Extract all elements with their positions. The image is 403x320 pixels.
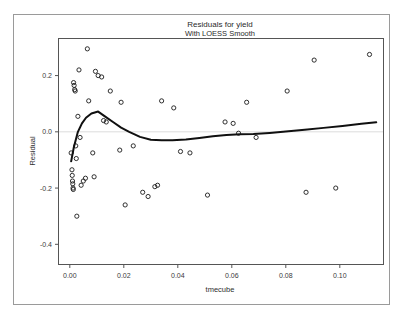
y-axis-ticks: 0.20.0-0.2-0.4 [40,72,59,248]
data-point [75,214,79,218]
page-title: Residuals for yield [187,20,252,29]
data-point [205,193,209,197]
x-axis-ticks: 0.000.020.040.060.080.10 [63,264,347,279]
data-point [119,100,123,104]
data-point [123,203,127,207]
chart-surface: Residuals for yield With LOESS Smooth 0.… [0,0,403,320]
data-point [172,106,176,110]
data-point [76,114,80,118]
data-point [285,89,289,93]
data-point [178,149,182,153]
data-point [74,156,78,160]
data-point [141,190,145,194]
data-point [367,52,371,56]
data-point [160,99,164,103]
data-point [146,194,150,198]
data-point [91,151,95,155]
loess-smooth-layer [71,112,376,162]
data-point [71,182,75,186]
data-point [223,120,227,124]
scatter-points-layer [69,47,372,219]
data-point [231,121,235,125]
data-point [79,183,83,187]
y-tick-label: -0.4 [40,241,52,248]
chart-title-group: Residuals for yield With LOESS Smooth [185,20,255,38]
x-tick-label: 0.10 [333,272,347,279]
data-point [254,135,258,139]
y-tick-label: 0.2 [42,72,52,79]
data-point [92,175,96,179]
plot-area-box [59,39,384,265]
chart-subtitle: With LOESS Smooth [185,29,255,38]
data-point [334,186,338,190]
x-tick-label: 0.08 [279,272,293,279]
data-point [93,69,97,73]
x-tick-label: 0.00 [63,272,77,279]
data-point [245,100,249,104]
data-point [77,68,81,72]
x-axis-title: tmecube [206,285,235,294]
data-point [108,89,112,93]
data-point [87,99,91,103]
y-tick-label: -0.2 [40,185,52,192]
data-point [118,148,122,152]
data-point [312,58,316,62]
residual-scatter-plot: Residuals for yield With LOESS Smooth 0.… [0,0,403,320]
data-point [70,173,74,177]
data-point [85,47,89,51]
data-point [78,135,82,139]
data-point [304,190,308,194]
y-axis-title: Residual [28,136,37,166]
data-point [131,144,135,148]
x-tick-label: 0.02 [117,272,131,279]
data-point [188,151,192,155]
x-tick-label: 0.04 [171,272,185,279]
y-tick-label: 0.0 [42,128,52,135]
loess-smooth-curve [71,112,376,162]
data-point [70,168,74,172]
data-point [72,83,76,87]
x-tick-label: 0.06 [225,272,239,279]
